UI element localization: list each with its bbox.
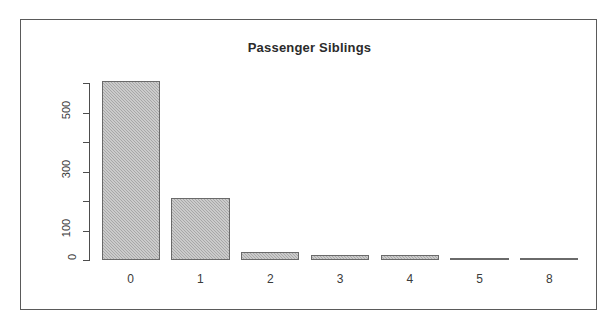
bar bbox=[171, 198, 229, 260]
y-axis-tick-label: 500 bbox=[21, 104, 75, 116]
y-axis-tick bbox=[83, 172, 90, 173]
y-axis-tick bbox=[83, 260, 90, 261]
y-axis-tick bbox=[83, 113, 90, 114]
bars-layer bbox=[90, 83, 590, 260]
x-axis-tick-label: 2 bbox=[267, 272, 274, 286]
x-axis-tick-label: 1 bbox=[197, 272, 204, 286]
x-axis-tick-label: 5 bbox=[476, 272, 483, 286]
y-axis-tick-label: 300 bbox=[21, 163, 75, 175]
figure-frame: Passenger Siblings 0100300500 0123458 bbox=[20, 19, 597, 310]
chart-title: Passenger Siblings bbox=[21, 40, 598, 55]
x-axis-tick-label: 8 bbox=[546, 272, 553, 286]
x-axis-tick-label: 3 bbox=[337, 272, 344, 286]
bar bbox=[381, 255, 439, 260]
bar bbox=[450, 258, 508, 260]
x-axis-tick-label: 0 bbox=[127, 272, 134, 286]
plot-area: Passenger Siblings 0100300500 0123458 bbox=[21, 20, 598, 311]
y-axis-tick bbox=[83, 83, 90, 84]
x-axis-tick-label: 4 bbox=[406, 272, 413, 286]
bar bbox=[102, 81, 160, 260]
bar bbox=[311, 255, 369, 260]
y-axis-tick bbox=[83, 201, 90, 202]
bar bbox=[520, 258, 578, 260]
y-axis-tick bbox=[83, 142, 90, 143]
bar bbox=[241, 252, 299, 260]
y-axis-tick-label: 100 bbox=[21, 222, 75, 234]
y-axis-tick-label: 0 bbox=[21, 251, 75, 263]
y-axis-tick bbox=[83, 231, 90, 232]
